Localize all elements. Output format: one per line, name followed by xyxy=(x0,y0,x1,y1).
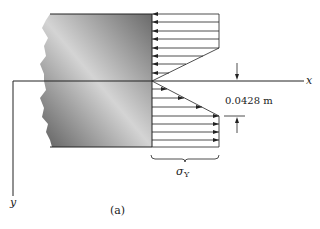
tension-stress-profile xyxy=(152,81,219,147)
arrow-down-icon xyxy=(235,74,239,80)
figure-caption: (a) xyxy=(110,204,125,217)
arrow-up-icon xyxy=(235,117,239,123)
x-axis-label: x xyxy=(306,74,313,87)
y-axis-label: y xyxy=(9,196,17,209)
compression-stress-profile xyxy=(152,14,219,81)
stress-distribution-diagram: x y 0.0428 m σ Y (a) xyxy=(0,0,320,229)
sigma-y-brace xyxy=(151,155,219,162)
dimension-label: 0.0428 m xyxy=(225,95,273,106)
yield-stress-subscript: Y xyxy=(183,170,190,179)
yield-stress-label: σ xyxy=(176,165,184,178)
tension-arrowheads xyxy=(161,87,219,142)
compression-arrowheads xyxy=(152,12,158,75)
